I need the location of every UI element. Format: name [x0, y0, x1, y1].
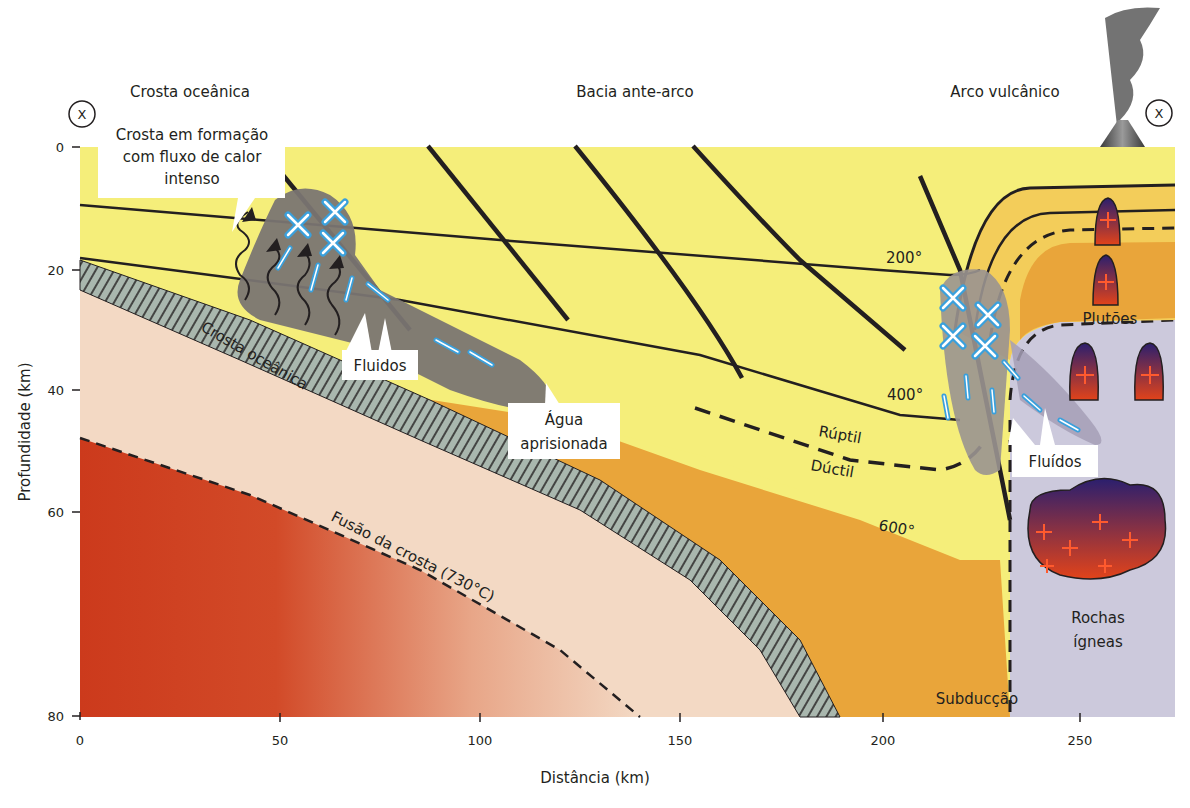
- svg-text:20: 20: [47, 263, 64, 278]
- svg-text:40: 40: [47, 383, 64, 398]
- svg-text:60: 60: [47, 505, 64, 520]
- svg-text:Crosta em formação: Crosta em formação: [116, 126, 269, 144]
- svg-text:250: 250: [1068, 733, 1093, 748]
- header-volcanic-arc: Arco vulcânico: [950, 83, 1059, 101]
- label-plutons: Plutões: [1083, 310, 1138, 328]
- svg-text:intenso: intenso: [164, 170, 219, 188]
- label-igneous-rocks-2: ígneas: [1073, 633, 1123, 651]
- x-axis-label: Distância (km): [540, 769, 650, 787]
- igneous-rock-body: [1028, 479, 1166, 579]
- y-tick-labels: 0 20 40 60 80: [47, 140, 64, 724]
- volcano-icon: [1100, 7, 1160, 147]
- svg-text:X: X: [78, 107, 87, 122]
- svg-text:0: 0: [76, 733, 84, 748]
- header-forearc-basin: Bacia ante-arco: [576, 83, 694, 101]
- x-tick-labels: 0 50 100 150 200 250: [76, 733, 1093, 748]
- svg-text:0: 0: [56, 140, 64, 155]
- svg-text:150: 150: [668, 733, 693, 748]
- svg-text:Fluídos: Fluídos: [1029, 453, 1082, 471]
- svg-text:100: 100: [468, 733, 493, 748]
- svg-text:80: 80: [47, 709, 64, 724]
- svg-text:Fluidos: Fluidos: [354, 357, 407, 375]
- label-isotherm-400: 400°: [887, 386, 923, 404]
- header-oceanic-crust: Crosta oceânica: [130, 83, 250, 101]
- svg-text:X: X: [1155, 106, 1164, 121]
- svg-text:200: 200: [871, 733, 896, 748]
- label-subduction: Subducção: [936, 690, 1018, 708]
- label-isotherm-200: 200°: [886, 249, 922, 267]
- svg-text:aprisionada: aprisionada: [520, 435, 608, 453]
- label-igneous-rocks-1: Rochas: [1071, 609, 1125, 627]
- section-marker-left: X: [69, 101, 95, 127]
- subduction-zone-diagram: 0 20 40 60 80 0 50 100 150 200 250 Distâ…: [0, 0, 1190, 808]
- section-marker-right: X: [1146, 100, 1172, 126]
- svg-text:Água: Água: [545, 410, 583, 429]
- y-axis-label: Profundidade (km): [16, 362, 34, 501]
- svg-text:com fluxo de calor: com fluxo de calor: [123, 148, 262, 166]
- svg-text:50: 50: [272, 733, 289, 748]
